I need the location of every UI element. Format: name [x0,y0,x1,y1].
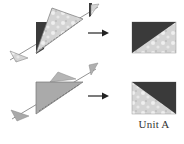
dog-ear-top [89,63,98,75]
arrow-right-icon [88,93,109,100]
dog-ear-bottom [11,110,29,121]
dog-ear-light [91,4,99,15]
result-square-1 [132,22,176,53]
upper-triangle [50,72,76,82]
arrow-right-icon [88,30,109,37]
step-2-sewing [11,63,98,121]
result-square-2 [132,82,176,114]
unit-label: Unit A [128,118,180,130]
dog-ear-bottom [10,51,28,62]
medium-triangle [36,82,83,114]
step-1-sewing [10,3,99,62]
